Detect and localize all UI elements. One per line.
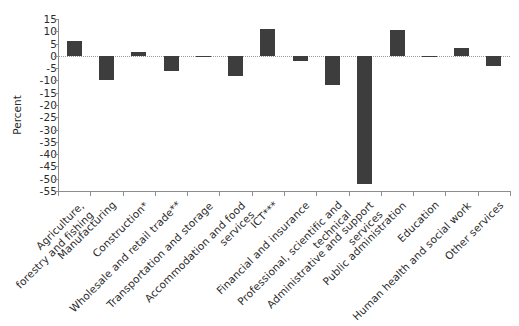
bar bbox=[99, 56, 114, 81]
bar bbox=[486, 56, 501, 66]
y-tick-mark bbox=[54, 19, 58, 20]
y-tick-mark bbox=[54, 80, 58, 81]
x-tick-mark bbox=[510, 191, 511, 196]
bar bbox=[293, 56, 308, 61]
x-tick-mark bbox=[219, 191, 220, 196]
zero-reference-line bbox=[58, 56, 510, 57]
y-tick-mark bbox=[54, 154, 58, 155]
bar bbox=[390, 30, 405, 56]
bar bbox=[131, 52, 146, 56]
y-tick-mark bbox=[54, 44, 58, 45]
x-tick-mark bbox=[58, 191, 59, 196]
bar bbox=[260, 29, 275, 56]
y-tick-mark bbox=[54, 179, 58, 180]
y-tick-label: -20 bbox=[29, 100, 57, 111]
y-tick-mark bbox=[54, 68, 58, 69]
y-tick-mark bbox=[54, 105, 58, 106]
y-axis-title-text: Percent bbox=[11, 95, 23, 135]
y-tick-mark bbox=[54, 31, 58, 32]
bar bbox=[422, 56, 437, 58]
bar bbox=[196, 56, 211, 58]
x-tick-mark bbox=[349, 191, 350, 196]
y-tick-label: 5 bbox=[29, 38, 57, 49]
x-tick-mark bbox=[284, 191, 285, 196]
bar bbox=[67, 41, 82, 56]
y-axis-line bbox=[58, 19, 59, 191]
y-tick-label: -50 bbox=[29, 173, 57, 184]
bar bbox=[357, 56, 372, 184]
y-tick-label: -30 bbox=[29, 124, 57, 135]
y-tick-label: -10 bbox=[29, 75, 57, 86]
x-tick-mark bbox=[445, 191, 446, 196]
y-tick-label: -25 bbox=[29, 112, 57, 123]
x-tick-mark bbox=[123, 191, 124, 196]
y-tick-label: -5 bbox=[29, 63, 57, 74]
y-tick-label: -35 bbox=[29, 137, 57, 148]
plot-area bbox=[58, 19, 510, 191]
bar bbox=[325, 56, 340, 85]
x-tick-mark bbox=[90, 191, 91, 196]
bar bbox=[228, 56, 243, 76]
x-tick-mark bbox=[413, 191, 414, 196]
y-tick-label: -45 bbox=[29, 161, 57, 172]
x-tick-mark bbox=[187, 191, 188, 196]
x-tick-mark bbox=[316, 191, 317, 196]
y-tick-label: -15 bbox=[29, 87, 57, 98]
bar-chart: Percent 151050-5-10-15-20-25-30-35-40-45… bbox=[0, 0, 519, 326]
x-tick-mark bbox=[155, 191, 156, 196]
y-tick-label: -55 bbox=[29, 186, 57, 197]
y-tick-mark bbox=[54, 93, 58, 94]
x-tick-mark bbox=[381, 191, 382, 196]
bar bbox=[164, 56, 179, 71]
y-tick-label: 15 bbox=[29, 14, 57, 25]
y-axis-title: Percent bbox=[10, 75, 24, 155]
x-tick-mark bbox=[478, 191, 479, 196]
x-tick-mark bbox=[252, 191, 253, 196]
y-tick-label: 0 bbox=[29, 51, 57, 62]
y-tick-mark bbox=[54, 117, 58, 118]
y-tick-mark bbox=[54, 166, 58, 167]
y-tick-mark bbox=[54, 142, 58, 143]
y-tick-label: 10 bbox=[29, 26, 57, 37]
y-tick-mark bbox=[54, 130, 58, 131]
y-tick-label: -40 bbox=[29, 149, 57, 160]
bar bbox=[454, 48, 469, 55]
